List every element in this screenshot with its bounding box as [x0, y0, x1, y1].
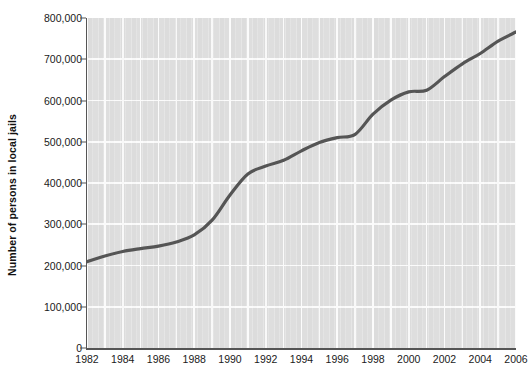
x-axis-tick-label: 2002 [433, 353, 456, 365]
x-axis-line [86, 348, 516, 350]
y-axis-tick-label: 400,000 [20, 177, 82, 189]
y-axis-tick-label: 700,000 [20, 53, 82, 65]
x-axis-tick-label: 2000 [397, 353, 420, 365]
x-axis-tick-label: 1994 [290, 353, 313, 365]
x-axis-tick-label: 1992 [254, 353, 277, 365]
x-axis-tick-label: 1988 [183, 353, 206, 365]
x-axis-tick-label: 1996 [326, 353, 349, 365]
x-axis-tick-label: 1990 [218, 353, 241, 365]
y-axis-tick-label: 200,000 [20, 260, 82, 272]
y-axis-tick-label: 800,000 [20, 12, 82, 24]
data-series-layer [87, 18, 516, 348]
y-axis-tick-labels: 0100,000200,000300,000400,000500,000600,… [20, 0, 82, 390]
x-axis-tick-label: 1986 [147, 353, 170, 365]
x-axis-tick-label: 1984 [111, 353, 134, 365]
y-axis-tick-label: 300,000 [20, 218, 82, 230]
x-axis-tick-label: 2006 [504, 353, 527, 365]
plot-area [87, 18, 516, 348]
y-axis-tick-label: 100,000 [20, 301, 82, 313]
line-chart-figure: Number of persons in local jails 0100,00… [0, 0, 532, 390]
x-axis-tick-label: 1982 [75, 353, 98, 365]
y-axis-tick-label: 600,000 [20, 95, 82, 107]
x-axis-tick-label: 1998 [361, 353, 384, 365]
x-axis-tick-labels: 1982198419861988199019921994199619982000… [0, 353, 532, 373]
y-axis-tick-label: 500,000 [20, 136, 82, 148]
x-axis-tick-label: 2004 [469, 353, 492, 365]
series-line-persons-in-local-jails [87, 32, 516, 262]
